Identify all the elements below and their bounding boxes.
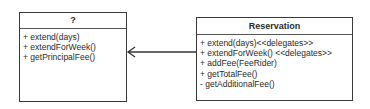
- association-arrow: [0, 0, 370, 109]
